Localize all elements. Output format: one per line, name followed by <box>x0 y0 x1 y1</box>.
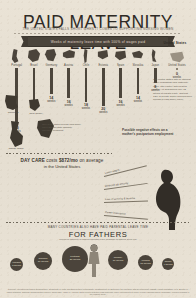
header-divider <box>14 33 182 34</box>
country-shape-spain-icon <box>112 47 129 64</box>
state-maps: California New Jersey Rhode Island Only … <box>2 92 98 154</box>
country-label: Brazil <box>30 65 37 68</box>
father-leave-bubble: Portugal20 weeks <box>62 246 88 272</box>
chart-banner: Weeks of maternity leave time with 100% … <box>27 36 169 47</box>
father-leave-bubble: Finland3 weeks <box>10 258 23 271</box>
state-label: New Jersey <box>21 113 51 116</box>
bar <box>176 68 179 70</box>
father-leave-bubble: Sweden10 weeks <box>34 252 52 270</box>
country-shape-estonia-icon <box>95 47 112 64</box>
country-label: Slovakia <box>132 65 143 68</box>
bubble-weeks: 3 weeks <box>12 265 21 268</box>
bar-value-label: 16weeks <box>117 100 125 107</box>
country-shape-brazil-icon <box>25 47 42 64</box>
pregnant-woman-silhouette-icon <box>144 168 190 230</box>
country-label: Germany <box>45 65 57 68</box>
country-shape-chile-icon <box>77 47 94 64</box>
country-label: United States <box>168 65 185 68</box>
country-shape-united-states-icon <box>164 47 190 64</box>
us-callout: United States <box>157 41 193 45</box>
chart-banner-label: Weeks of maternity leave time with 100% … <box>51 40 146 44</box>
state-note: Only a few states provide paid family le… <box>42 123 82 132</box>
father-leave-bubble: Iceland13 weeks <box>138 255 153 270</box>
father-leave-bubble: Norway10 weeks <box>108 250 128 270</box>
country-label: Spain <box>117 65 124 68</box>
country-label: Austria <box>64 65 73 68</box>
country-label: Japan <box>151 65 159 68</box>
state-shape-icon <box>28 98 41 112</box>
bar <box>119 68 122 98</box>
state-label: Rhode Island <box>1 148 31 151</box>
bar-value-label: 20weeks <box>99 107 107 114</box>
chart-column-spain: Spain16weeks <box>112 47 129 128</box>
bar-container: 14weeks <box>129 68 146 128</box>
bubble-weeks: 10 weeks <box>38 261 49 264</box>
state-shape-icon <box>4 94 20 111</box>
bar <box>137 68 140 94</box>
footer-sources: Sources: International Labour Organizati… <box>6 288 190 296</box>
daycare-sub: in the United States <box>6 164 118 169</box>
infographic-page: PAID MATERNITY LEAVE THE UNITED STATES F… <box>0 0 196 298</box>
negative-effects-text: Possible negative effects on a mother's … <box>122 128 176 137</box>
page-subtitle: THE UNITED STATES FALLS SHORT WHEN IT CO… <box>14 28 182 32</box>
father-silhouette-icon <box>86 244 102 278</box>
daycare-divider <box>6 153 114 154</box>
fathers-divider <box>6 222 190 223</box>
chart-column-slovakia: Slovakia14weeks <box>129 47 146 128</box>
country-label: Chile <box>83 65 90 68</box>
bar <box>50 68 53 94</box>
bar-container: 16weeks <box>112 68 129 128</box>
effect-ray-line <box>104 215 148 220</box>
bar-value-label: 14weeks <box>134 96 142 103</box>
state-shape-icon <box>8 120 26 148</box>
country-label: Portugal <box>11 65 22 68</box>
daycare-lead: DAY CARE <box>21 158 45 163</box>
country-shape-germany-icon <box>43 47 60 64</box>
daycare-costs-label: costs <box>46 158 57 163</box>
daycare-tail: on average <box>79 158 103 163</box>
daycare-stat: DAY CARE costs $872/mo on average in the… <box>6 158 118 169</box>
us-callout-title: United States <box>157 41 193 45</box>
father-leave-bubble: Japan4 weeks <box>162 258 174 270</box>
country-shape-portugal-icon <box>8 47 25 64</box>
us-callout-note: The United States has no national policy… <box>153 78 193 102</box>
country-shape-austria-icon <box>60 47 77 64</box>
fathers-sub: Weeks of paternity or shared parental le… <box>30 239 166 242</box>
country-shape-japan-icon <box>147 47 164 64</box>
bubble-weeks: 4 weeks <box>163 264 172 267</box>
bar <box>102 68 105 105</box>
effect-ray-line <box>104 200 148 203</box>
country-label: Estonia <box>98 65 108 68</box>
fathers-kicker: MANY COUNTRIES ALSO HAVE PAID PARENTAL L… <box>0 225 196 229</box>
daycare-amount: $872/mo <box>59 158 78 163</box>
country-shape-slovakia-icon <box>129 47 146 64</box>
bubble-weeks: 13 weeks <box>140 263 151 266</box>
bubble-weeks: 20 weeks <box>70 259 81 262</box>
bubble-weeks: 10 weeks <box>113 260 124 263</box>
